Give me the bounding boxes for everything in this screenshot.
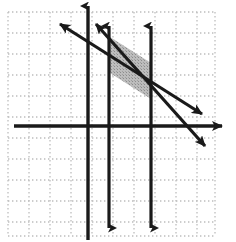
coordinate-graph-figure	[0, 0, 236, 242]
diagonal-upper-boundary	[60, 24, 202, 114]
coordinate-graph-svg	[0, 0, 236, 242]
axes	[14, 6, 222, 240]
